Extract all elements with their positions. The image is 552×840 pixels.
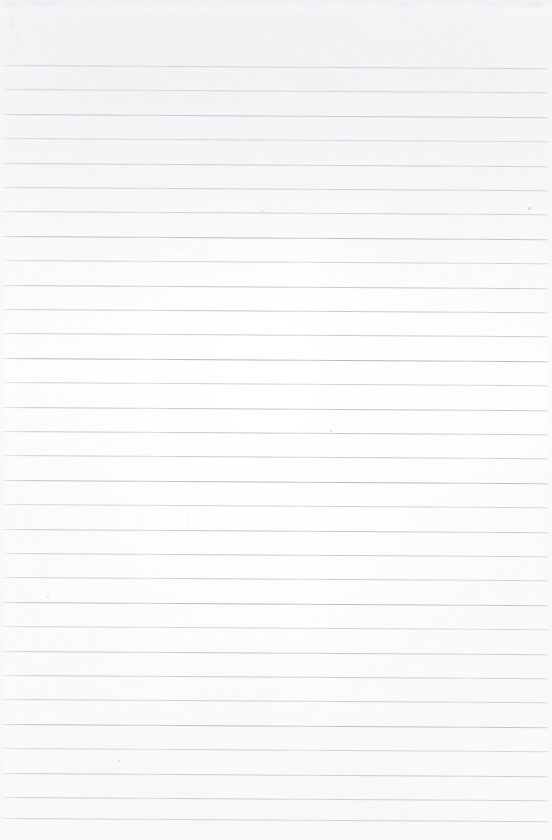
paper-sheet xyxy=(0,0,552,840)
scanned-page xyxy=(0,0,552,840)
